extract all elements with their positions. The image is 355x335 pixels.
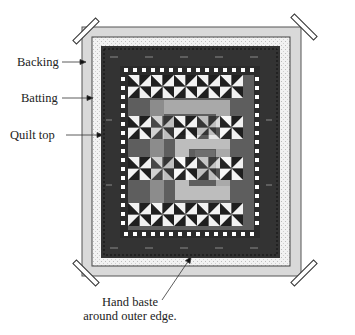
caption-hand-baste-line1: Hand baste <box>78 295 182 310</box>
caption-hand-baste-line2: around outer edge. <box>78 309 182 324</box>
pinwheel-block-grid <box>128 75 254 230</box>
quilt-top-layer <box>101 46 280 258</box>
pieced-center <box>120 66 260 238</box>
quilt-layering-diagram: Backing Batting Quilt top Hand baste aro… <box>0 0 355 335</box>
label-backing: Backing <box>17 55 59 69</box>
label-batting: Batting <box>21 91 58 105</box>
label-quilt-top: Quilt top <box>10 128 55 142</box>
